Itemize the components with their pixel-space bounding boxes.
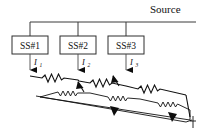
running-rail-upper [30, 74, 190, 117]
source-bus [30, 22, 196, 36]
substation-box-ss2 [60, 36, 96, 54]
return-arrow-ss3 [111, 75, 119, 86]
circuit-figure: Source SS#1 SS#2 SS#3 I 1 I 2 I 3 [0, 0, 205, 137]
terminal-stub-icon [190, 116, 196, 128]
substation-box-ss3 [108, 36, 144, 54]
substation-box-ss1 [12, 36, 48, 54]
return-arrow-ss2 [76, 81, 84, 92]
running-rail-lower [40, 91, 190, 120]
conductor-arrow-left [110, 106, 119, 116]
